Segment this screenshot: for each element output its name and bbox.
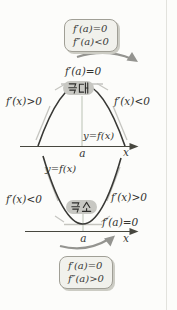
curve-label-min: y=f(x) [45, 163, 76, 175]
second-derivative-callout-max: f′(a)=0 f″(a)<0 [64, 19, 118, 52]
slope-negative-label-min: f′(x)<0 [6, 193, 42, 205]
second-derivative-callout-min: f′(a)=0 f″(a)>0 [59, 256, 113, 289]
curve-label-max: y=f(x) [83, 130, 114, 142]
point-a-label-min: a [79, 232, 88, 244]
slope-positive-label-min: f′(x)>0 [111, 191, 147, 203]
callout-line-2: f″(a)<0 [73, 36, 109, 49]
rotation-arrow-top [77, 53, 132, 59]
tangent-zero-label-min: f′(a)=0 [102, 216, 138, 228]
tangent-zero-label-max: f′(a)=0 [65, 65, 101, 77]
point-a-label-max: a [78, 147, 87, 159]
tangent-right-icon [113, 106, 127, 140]
callout-line-1: f′(a)=0 [73, 23, 109, 36]
slope-positive-label-max: f′(x)>0 [6, 95, 42, 107]
calculus-extrema-diagram: f′(a)=0 f″(a)<0 f′(a)=0 f′(x)>0 f′(x)<0 … [0, 0, 177, 310]
x-axis-label-min: x [123, 232, 129, 244]
tangent-left-icon [36, 106, 50, 140]
tangent-left-shoulder-icon [55, 216, 64, 222]
local-max-badge: 극대 [63, 81, 94, 95]
callout-line-2: f″(a)>0 [68, 273, 104, 286]
callout-line-1: f′(a)=0 [68, 260, 104, 273]
slope-negative-label-max: f′(x)<0 [114, 95, 150, 107]
x-axis-top-arrowhead-icon [130, 143, 139, 150]
local-min-badge: 극소 [66, 200, 97, 214]
local-min-hangul-icon [71, 201, 92, 213]
x-axis-bottom-arrowhead-icon [130, 228, 139, 235]
x-axis-label-max: x [123, 146, 129, 158]
local-max-hangul-icon [68, 82, 89, 94]
